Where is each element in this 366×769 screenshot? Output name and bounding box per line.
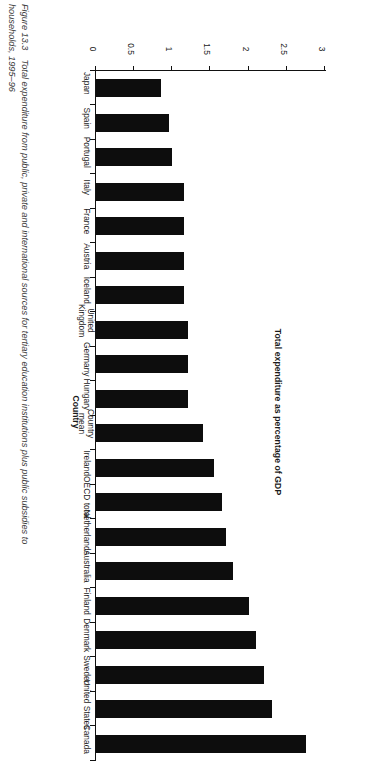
value-tick bbox=[133, 66, 134, 71]
bar bbox=[96, 148, 172, 166]
category-tick bbox=[90, 70, 95, 71]
value-tick bbox=[248, 66, 249, 71]
bar bbox=[96, 493, 222, 511]
figure-caption-line-1: Total expenditure from public, private a… bbox=[20, 60, 30, 545]
value-tick bbox=[171, 66, 172, 71]
rotated-page-stage: Figure 13.3Total expenditure from public… bbox=[0, 0, 366, 769]
bar bbox=[96, 459, 214, 477]
value-tick-label: 1.5 bbox=[203, 34, 213, 64]
bar bbox=[96, 355, 188, 373]
category-tick bbox=[90, 173, 95, 174]
category-tick bbox=[90, 104, 95, 105]
value-axis-line bbox=[95, 70, 326, 71]
bar bbox=[96, 252, 184, 270]
value-tick-label: 3 bbox=[317, 34, 327, 64]
bar bbox=[96, 114, 169, 132]
bar bbox=[96, 700, 272, 718]
category-label: Japan bbox=[81, 38, 90, 130]
bar bbox=[96, 528, 226, 546]
bar bbox=[96, 79, 161, 97]
value-tick bbox=[324, 66, 325, 71]
value-tick bbox=[95, 66, 96, 71]
bar bbox=[96, 424, 203, 442]
bar-chart: Total expenditure as percentage of GDP C… bbox=[32, 0, 332, 769]
figure-number: Figure 13.3 bbox=[20, 5, 30, 51]
bar bbox=[96, 217, 184, 235]
plot-area: 00.511.522.53 CanadaUnited StatesSwedenD… bbox=[70, 61, 332, 761]
bar bbox=[96, 735, 306, 753]
value-tick bbox=[210, 66, 211, 71]
value-tick-label: 2.5 bbox=[279, 34, 289, 64]
bar bbox=[96, 631, 256, 649]
figure-caption-line-2: households, 1995–96 bbox=[5, 5, 18, 765]
bar bbox=[96, 597, 249, 615]
value-tick-label: 1 bbox=[164, 34, 174, 64]
bar bbox=[96, 321, 188, 339]
value-tick-label: 0.5 bbox=[126, 34, 136, 64]
bar bbox=[96, 562, 233, 580]
value-tick bbox=[286, 66, 287, 71]
value-tick-label: 2 bbox=[241, 34, 251, 64]
figure-caption: Figure 13.3Total expenditure from public… bbox=[2, 0, 34, 769]
bar bbox=[96, 666, 264, 684]
category-tick bbox=[90, 760, 95, 761]
bar bbox=[96, 390, 188, 408]
bar bbox=[96, 286, 184, 304]
bar bbox=[96, 183, 184, 201]
